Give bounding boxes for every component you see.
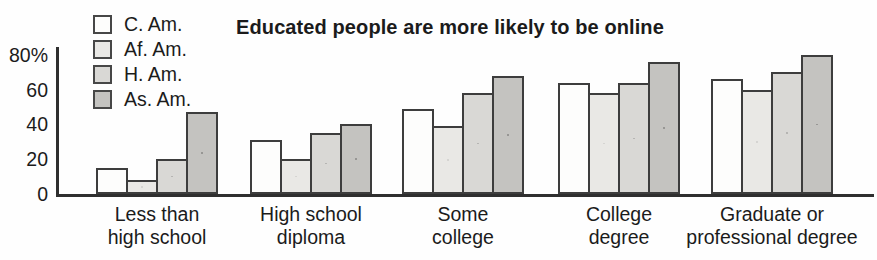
legend-label: H. Am. [124,65,183,84]
bar-group [558,62,680,194]
x-axis-line [56,194,874,197]
bar-h-am [156,159,188,194]
y-axis-tick-label: 60 [0,78,48,102]
category-label-line: Graduate or [642,203,877,226]
legend-item: C. Am. [93,15,191,34]
legend-swatch-c-am [93,15,112,34]
bar-as-am [801,55,833,194]
bar-h-am [618,83,650,194]
bar-c-am [250,140,282,194]
legend-label: C. Am. [124,15,183,34]
bar-h-am [771,72,803,194]
bar-as-am [648,62,680,194]
chart-title: Educated people are more likely to be on… [230,15,670,39]
bar-af-am [741,90,773,194]
category-label: Graduate orprofessional degree [642,203,877,249]
legend-swatch-as-am [93,90,112,109]
legend-swatch-af-am [93,40,112,59]
legend-swatch-h-am [93,65,112,84]
bar-as-am [340,124,372,194]
legend-label: Af. Am. [124,40,187,59]
bar-group [402,76,524,194]
y-axis-tick-label: 20 [0,147,48,171]
bar-af-am [280,159,312,194]
bar-h-am [310,133,342,194]
bar-chart: Educated people are more likely to be on… [0,0,877,260]
legend-item: Af. Am. [93,40,191,59]
legend-item: As. Am. [93,90,191,109]
bar-group [711,55,833,194]
bar-c-am [558,83,590,194]
bar-af-am [432,126,464,194]
legend: C. Am.Af. Am.H. Am.As. Am. [93,15,191,115]
y-axis-tick-label: 40 [0,112,48,136]
bar-group [250,124,372,194]
legend-label: As. Am. [124,90,191,109]
category-label-line: professional degree [642,226,877,249]
y-axis-line [56,47,59,197]
bar-group [96,112,218,194]
bar-af-am [126,180,158,194]
legend-item: H. Am. [93,65,191,84]
bar-c-am [402,109,434,194]
bar-af-am [588,93,620,194]
y-axis-tick-label: 80% [0,43,48,67]
bar-as-am [186,112,218,194]
bar-c-am [711,79,743,194]
bar-as-am [492,76,524,194]
bar-c-am [96,168,128,194]
bar-h-am [462,93,494,194]
